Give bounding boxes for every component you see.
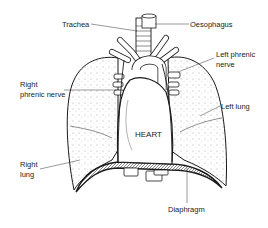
label-left-phrenic-line1: Left phrenic bbox=[216, 50, 255, 59]
label-right-lung-line2: lung bbox=[20, 170, 34, 179]
thorax-diagram: Trachea Oesophagus Left phrenic nerve Ri… bbox=[0, 0, 268, 228]
label-right-phrenic-line2: phrenic nerve bbox=[20, 90, 65, 99]
label-diaphragm: Diaphragm bbox=[168, 205, 205, 214]
label-left-phrenic-line2: nerve bbox=[216, 60, 235, 69]
label-right-phrenic-line1: Right bbox=[20, 80, 38, 89]
thorax-illustration bbox=[0, 0, 268, 228]
label-trachea: Trachea bbox=[62, 20, 89, 29]
label-oesophagus: Oesophagus bbox=[190, 20, 233, 29]
label-right-lung-line1: Right bbox=[20, 160, 38, 169]
label-heart: HEART bbox=[135, 130, 162, 139]
label-left-lung: Left lung bbox=[221, 102, 250, 111]
